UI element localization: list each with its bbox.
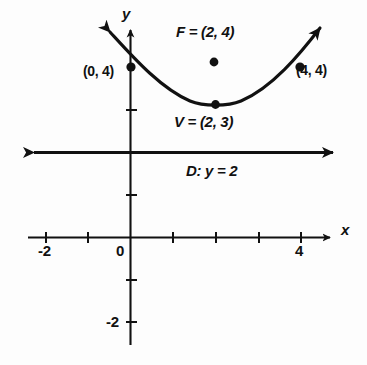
y-axis-label: y [122, 6, 130, 21]
directrix-label: D: y = 2 [186, 163, 237, 178]
vertex-marker [211, 100, 220, 109]
origin-label: 0 [116, 243, 124, 258]
vertex-label: V = (2, 3) [174, 114, 233, 129]
x-axis [28, 232, 330, 243]
point-4-4-label: (4, 4) [296, 63, 327, 77]
focus-marker [210, 58, 219, 67]
x-axis-label: x [341, 222, 349, 237]
parabola-figure: y x 0 -2 4 -2 F = (2, 4) (0, 4) (4, 4) V… [0, 0, 367, 365]
point-0-4-marker [126, 62, 135, 71]
y-tick-label-neg2: -2 [106, 314, 119, 329]
coordinate-plane-svg [0, 0, 367, 365]
x-tick-label-4: 4 [295, 243, 303, 258]
focus-label: F = (2, 4) [176, 24, 234, 39]
y-axis [126, 30, 137, 345]
x-tick-label-neg2: -2 [38, 243, 51, 258]
point-0-4-label: (0, 4) [83, 64, 114, 78]
